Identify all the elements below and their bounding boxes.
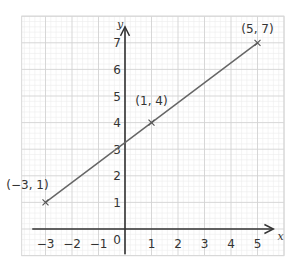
point-label: (−3, 1) <box>6 178 48 192</box>
x-tick-label: −1 <box>90 237 108 251</box>
x-tick-label: 1 <box>148 237 156 251</box>
x-axis-label: x <box>277 230 284 243</box>
axes <box>32 27 273 254</box>
y-tick-label: 2 <box>113 169 121 183</box>
x-tick-label: 0 <box>113 233 121 247</box>
x-tick-label: −3 <box>37 237 55 251</box>
x-tick-label: 5 <box>254 237 262 251</box>
point-label: (5, 7) <box>241 22 273 36</box>
x-tick-label: −2 <box>63 237 81 251</box>
point-label: (1, 4) <box>135 94 167 108</box>
x-tick-label: 3 <box>201 237 209 251</box>
x-tick-label: 2 <box>174 237 182 251</box>
y-tick-label: 7 <box>113 36 121 50</box>
y-tick-label: 6 <box>113 63 121 77</box>
y-tick-label: 4 <box>113 116 121 130</box>
coordinate-graph: −3−2−10123451234567 (−3, 1)(1, 4)(5, 7) … <box>0 0 297 272</box>
y-tick-label: 5 <box>113 90 121 104</box>
y-axis-label: y <box>116 18 124 31</box>
y-tick-label: 1 <box>113 196 121 210</box>
point-labels: (−3, 1)(1, 4)(5, 7) <box>6 22 273 193</box>
x-tick-label: 4 <box>227 237 235 251</box>
